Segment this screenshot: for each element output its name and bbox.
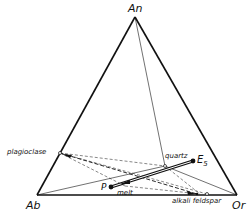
ternary-diagram [0,0,250,216]
label-e5: E5 [197,155,208,168]
plagioclase-point [59,152,62,155]
alkali-feldspar-point-a [196,193,199,196]
plagioclase-arrow-icon [62,154,72,158]
vertex-label-ab: Ab [26,200,41,211]
label-plagioclase: plagioclase [7,149,46,156]
vertex-label-or: Or [232,200,245,211]
quartz-or-line [165,166,237,195]
p-point [109,185,114,190]
an-quartz-line [135,17,165,166]
label-e5-sub: 5 [203,160,207,168]
alkali-feldspar-point-b [206,193,209,196]
label-quartz: quartz [165,153,187,160]
vertex-label-an: An [128,3,143,14]
quartz-point [164,165,167,168]
triangle-outline [37,17,237,195]
label-p: P [101,183,106,192]
e5-point [191,159,196,164]
label-melt: melt [117,190,133,197]
label-alkali-feldspar: alkali feldspar [172,198,221,205]
